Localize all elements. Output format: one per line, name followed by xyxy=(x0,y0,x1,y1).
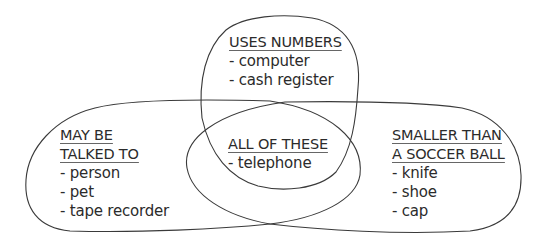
heading-line: USES NUMBERS xyxy=(229,33,342,52)
set-item: - tape recorder xyxy=(60,202,169,221)
set-item: - person xyxy=(60,164,169,183)
set-item: - pet xyxy=(60,183,169,202)
heading-line: SMALLER THAN xyxy=(392,126,505,145)
set-label-smaller-than-soccer-ball: SMALLER THAN A SOCCER BALL - knife - sho… xyxy=(392,126,505,221)
heading-line: MAY BE xyxy=(60,126,169,145)
set-heading: MAY BE TALKED TO xyxy=(60,126,169,164)
heading-line: TALKED TO xyxy=(60,145,169,164)
set-label-may-be-talked-to: MAY BE TALKED TO - person - pet - tape r… xyxy=(60,126,169,221)
set-item: - shoe xyxy=(392,183,505,202)
set-item: - cash register xyxy=(229,71,342,90)
set-label-uses-numbers: USES NUMBERS - computer - cash register xyxy=(229,33,342,90)
set-item: - computer xyxy=(229,52,342,71)
heading-line: A SOCCER BALL xyxy=(392,145,505,164)
set-item: - knife xyxy=(392,164,505,183)
set-heading: USES NUMBERS xyxy=(229,33,342,52)
set-label-all-of-these: ALL OF THESE - telephone xyxy=(228,135,328,173)
set-heading: ALL OF THESE xyxy=(228,135,328,154)
set-item: - telephone xyxy=(228,154,328,173)
set-item: - cap xyxy=(392,202,505,221)
set-heading: SMALLER THAN A SOCCER BALL xyxy=(392,126,505,164)
heading-line: ALL OF THESE xyxy=(228,135,328,154)
